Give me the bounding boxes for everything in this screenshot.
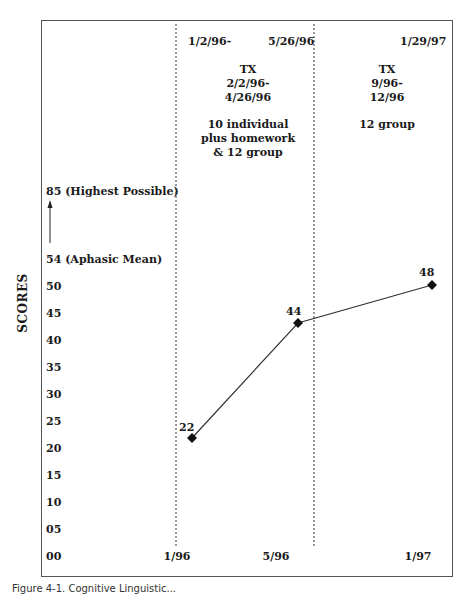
figure-caption: Figure 4-1. Cognitive Linguistic... — [12, 583, 176, 594]
data-label-1: 22 — [179, 421, 194, 434]
arrow-head-icon — [48, 200, 53, 208]
series-line — [192, 285, 432, 438]
plot-area — [0, 0, 468, 594]
diamond-marker-icon — [427, 280, 437, 290]
data-label-2: 44 — [286, 305, 301, 318]
data-label-3: 48 — [419, 266, 434, 279]
